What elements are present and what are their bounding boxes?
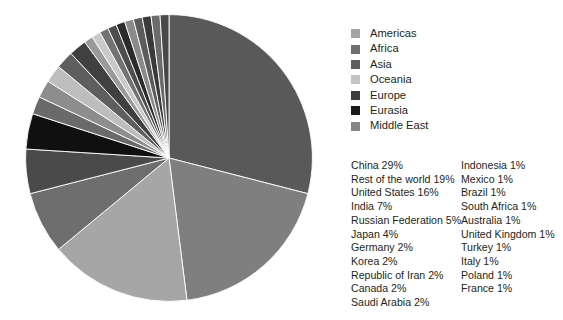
data-label-item: Indonesia 1%	[461, 159, 563, 173]
legend-item[interactable]: Asia	[351, 57, 551, 72]
legend-color-swatch	[351, 91, 360, 100]
pie-slice-group	[26, 15, 313, 302]
legend-item-label: Asia	[370, 57, 392, 72]
legend-item-label: Americas	[370, 26, 417, 41]
pie-chart-svg	[25, 14, 313, 302]
data-label-item: Korea 2%	[351, 255, 461, 269]
legend-item-label: Oceania	[370, 72, 412, 87]
legend-item-label: Middle East	[370, 118, 428, 133]
data-label-item: Republic of Iran 2%	[351, 269, 461, 283]
data-label-item: South Africa 1%	[461, 200, 563, 214]
legend-item-label: Africa	[370, 41, 399, 56]
data-label-item: China 29%	[351, 159, 461, 173]
legend-item-label: Europe	[370, 88, 406, 103]
legend-color-swatch	[351, 106, 360, 115]
data-label-item: Australia 1%	[461, 214, 563, 228]
data-label-item: Mexico 1%	[461, 173, 563, 187]
legend-color-swatch	[351, 60, 360, 69]
legend-item[interactable]: Africa	[351, 41, 551, 56]
legend-color-swatch	[351, 122, 360, 131]
legend-color-swatch	[351, 29, 360, 38]
data-label-item: Saudi Arabia 2%	[351, 296, 461, 310]
legend-item[interactable]: Europe	[351, 88, 551, 103]
data-label-item: India 7%	[351, 200, 461, 214]
data-label-item: United States 16%	[351, 186, 461, 200]
data-label-column-right: Indonesia 1%Mexico 1%Brazil 1%South Afri…	[461, 159, 563, 310]
data-label-item: Poland 1%	[461, 269, 563, 283]
data-label-item: Japan 4%	[351, 228, 461, 242]
data-label-item: Italy 1%	[461, 255, 563, 269]
legend-item-label: Eurasia	[370, 103, 408, 118]
data-label-item: Rest of the world 19%	[351, 173, 461, 187]
chart-canvas: AmericasAfricaAsiaOceaniaEuropeEurasiaMi…	[0, 0, 563, 320]
data-label-columns: China 29%Rest of the world 19%United Sta…	[351, 159, 563, 310]
legend-item[interactable]: Middle East	[351, 118, 551, 133]
data-label-item: Germany 2%	[351, 241, 461, 255]
legend: AmericasAfricaAsiaOceaniaEuropeEurasiaMi…	[351, 26, 551, 134]
data-label-item: Brazil 1%	[461, 186, 563, 200]
legend-color-swatch	[351, 45, 360, 54]
legend-item[interactable]: Americas	[351, 26, 551, 41]
data-label-item: United Kingdom 1%	[461, 228, 563, 242]
legend-color-swatch	[351, 75, 360, 84]
data-label-item: Canada 2%	[351, 282, 461, 296]
legend-item[interactable]: Eurasia	[351, 103, 551, 118]
legend-item[interactable]: Oceania	[351, 72, 551, 87]
data-label-item: France 1%	[461, 282, 563, 296]
data-label-item: Turkey 1%	[461, 241, 563, 255]
pie-chart	[25, 14, 313, 302]
data-label-column-left: China 29%Rest of the world 19%United Sta…	[351, 159, 461, 310]
data-label-item: Russian Federation 5%	[351, 214, 461, 228]
